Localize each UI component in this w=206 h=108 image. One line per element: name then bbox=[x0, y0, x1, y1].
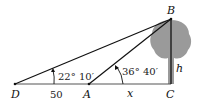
point-label-C: C bbox=[166, 89, 174, 100]
trig-tree-diagram: D A C B h x 50 22° 10′ 36° 40′ bbox=[0, 0, 206, 108]
point-label-A: A bbox=[83, 89, 91, 100]
angle-label-A: 36° 40′ bbox=[122, 67, 158, 77]
diagram-lines bbox=[0, 0, 206, 108]
distance-label-x: x bbox=[127, 88, 133, 99]
angle-label-D: 22° 10′ bbox=[58, 72, 94, 82]
angle-arc-D bbox=[53, 70, 54, 84]
height-label-h: h bbox=[176, 63, 183, 74]
point-label-B: B bbox=[167, 5, 175, 16]
point-label-D: D bbox=[11, 89, 20, 100]
distance-label-DA: 50 bbox=[50, 90, 63, 100]
